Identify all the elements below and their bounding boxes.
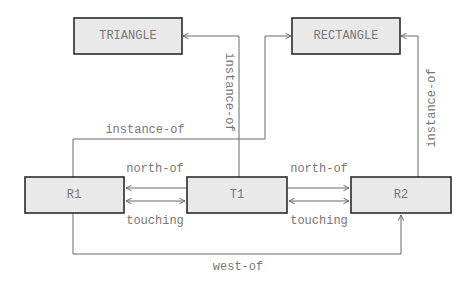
edge-t1-r2-touching: touching: [289, 201, 349, 228]
edge-r1-west-of-r2: west-of: [73, 213, 401, 274]
node-r2[interactable]: R2: [351, 177, 451, 213]
node-label-triangle: TRIANGLE: [99, 29, 157, 43]
edge-label-r1-west-of-r2: west-of: [213, 260, 263, 274]
node-label-r2: R2: [394, 188, 408, 202]
edge-t1-north-of-r2: north-of: [288, 162, 349, 188]
edge-label-t1-r2-touching: touching: [290, 214, 348, 228]
edge-label-r1-t1-touching: touching: [126, 214, 184, 228]
edge-r1-instance-of-rectangle: instance-of: [73, 36, 291, 177]
edge-label-t1-north-of-r2: north-of: [290, 162, 348, 176]
node-label-rectangle: RECTANGLE: [314, 29, 379, 43]
edge-r2-instance-of-rectangle: instance-of: [401, 36, 439, 177]
node-t1[interactable]: T1: [187, 177, 287, 213]
edge-label-t1-instance-of-triangle: instance-of: [222, 52, 236, 131]
edge-r1-t1-touching: touching: [126, 201, 185, 228]
edge-t1-instance-of-triangle: instance-of: [183, 36, 239, 177]
edge-label-t1-north-of-r1: north-of: [126, 162, 184, 176]
node-label-r1: R1: [67, 188, 81, 202]
node-triangle[interactable]: TRIANGLE: [74, 18, 182, 54]
edge-label-r1-instance-of-rectangle: instance-of: [105, 123, 184, 137]
edge-label-r2-instance-of-rectangle: instance-of: [425, 68, 439, 147]
node-label-t1: T1: [230, 188, 244, 202]
edge-t1-north-of-r1: north-of: [126, 162, 187, 188]
node-rectangle[interactable]: RECTANGLE: [292, 18, 400, 54]
semantic-network-diagram: instance-of instance-of instance-of nort…: [0, 0, 471, 282]
node-r1[interactable]: R1: [25, 177, 124, 213]
